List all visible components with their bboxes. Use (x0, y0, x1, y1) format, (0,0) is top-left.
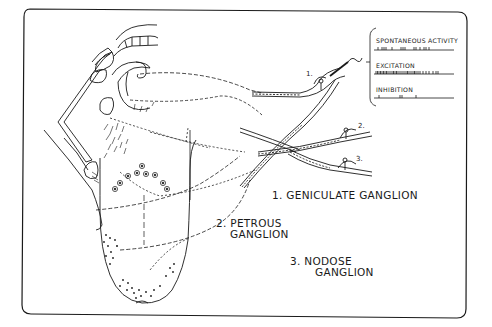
label-nodose-ganglion: 3. NODOSE GANGLION (290, 256, 374, 278)
label-geniculate-ganglion: 1. GENICULATE GANGLION (272, 190, 418, 201)
ganglion-marker-1: 1. (306, 70, 313, 78)
label-nodose-line2: GANGLION (290, 267, 374, 278)
label-petrous-ganglion: 2. PETROUS GANGLION (216, 218, 289, 240)
mouth-anatomy (44, 25, 196, 303)
circumvallate-papillae (112, 163, 169, 191)
trace-label-spontaneous: SPONTANEOUS ACTIVITY (376, 37, 458, 44)
trace-label-excitation: EXCITATION (376, 62, 415, 69)
foliate-papillae (92, 102, 154, 183)
nerve-fibers (96, 73, 262, 270)
nerve-bundles (240, 68, 372, 188)
trace-label-inhibition: INHIBITION (376, 86, 413, 93)
diagram-canvas (0, 0, 492, 327)
ganglion-1-geniculate (314, 58, 362, 90)
label-petrous-line2: GANGLION (216, 229, 289, 240)
ganglion-marker-3: 3. (356, 155, 363, 163)
ganglion-marker-2: 2. (358, 122, 365, 130)
